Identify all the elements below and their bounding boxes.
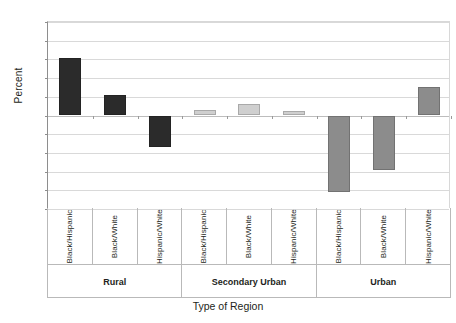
- category-label: Hispanic/White: [289, 209, 298, 264]
- category-label: Black/White: [110, 214, 119, 257]
- group-label-urban: Urban: [317, 265, 451, 298]
- bar-slot: [272, 22, 317, 208]
- bar: [283, 111, 305, 116]
- category-label-cell: Black/Hispanic: [48, 208, 93, 265]
- bar: [418, 87, 440, 115]
- bar-slot: [227, 22, 272, 208]
- category-label-cell: Black/Hispanic: [182, 208, 227, 265]
- bar: [238, 104, 260, 116]
- y-axis-title: Percent: [13, 46, 24, 126]
- group-label-secondary-urban: Secondary Urban: [182, 265, 316, 298]
- x-axis-title: Type of Region: [0, 300, 456, 312]
- category-label: Black/Hispanic: [65, 209, 74, 263]
- category-label: Hispanic/White: [155, 209, 164, 264]
- category-label: Black/Hispanic: [200, 209, 209, 263]
- category-label-cell: Hispanic/White: [138, 208, 183, 265]
- bar-slot: [406, 22, 451, 208]
- bar-slot: [317, 22, 362, 208]
- category-label-cell: Black/White: [361, 208, 406, 265]
- category-label-cell: Hispanic/White: [272, 208, 317, 265]
- bar: [328, 116, 350, 193]
- category-label: Black/White: [244, 214, 253, 257]
- bar: [104, 95, 126, 116]
- x-tick-mark: [451, 116, 452, 119]
- category-label: Black/White: [379, 214, 388, 257]
- bar-slot: [138, 22, 183, 208]
- plot-area: 2520151050-5-10-15-20-25: [47, 21, 450, 208]
- bar: [373, 116, 395, 170]
- bar-series: [48, 22, 449, 208]
- category-label-cell: Black/Hispanic: [317, 208, 362, 265]
- group-label-rural: Rural: [48, 265, 182, 298]
- bar-slot: [48, 22, 93, 208]
- bar-chart: Percent 2520151050-5-10-15-20-25 Black/H…: [0, 0, 456, 323]
- bar: [59, 58, 81, 115]
- category-label-cell: Black/White: [227, 208, 272, 265]
- category-label: Black/Hispanic: [334, 209, 343, 263]
- category-label-table: Black/HispanicBlack/WhiteHispanic/WhiteB…: [47, 208, 450, 298]
- category-label-cell: Hispanic/White: [406, 208, 451, 265]
- bar-slot: [93, 22, 138, 208]
- bar-slot: [361, 22, 406, 208]
- bar: [194, 110, 216, 116]
- bar-slot: [182, 22, 227, 208]
- category-label-cell: Black/White: [93, 208, 138, 265]
- category-label-row: Black/HispanicBlack/WhiteHispanic/WhiteB…: [48, 208, 450, 265]
- bar: [149, 116, 171, 147]
- group-label-row: RuralSecondary UrbanUrban: [48, 265, 450, 298]
- category-label: Hispanic/White: [424, 209, 433, 264]
